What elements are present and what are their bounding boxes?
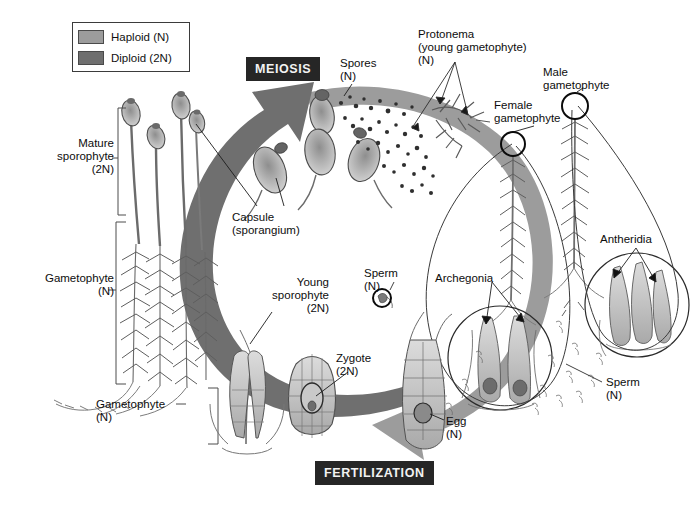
label-gametophyte-bottom: Gametophyte (N) [96,398,182,424]
bracket-mature-sporophyte [112,108,126,215]
highlight-circle-sperm [372,288,392,308]
label-gametophyte-left: Gametophyte (N) [16,272,114,298]
meiosis-banner: MEIOSIS [246,57,320,81]
leader-young-sporophyte [250,312,272,344]
bracket-gametophyte-left [108,222,126,384]
highlight-circle-male-gametophyte [561,92,589,120]
haploid-color-swatch [78,30,104,44]
highlight-circle-female-gametophyte [500,131,526,157]
bracket-gametophyte-bottom [176,388,218,444]
illustration-zygote [288,354,336,438]
legend-item-diploid: Diploid (2N) [78,48,184,68]
ploidy-legend: Haploid (N) Diploid (2N) [72,22,190,72]
diploid-cycle-arrow [180,82,406,417]
label-capsule-sporangium: Capsule (sporangium) [232,211,300,237]
label-mature-sporophyte: Mature sporophyte (2N) [28,137,114,176]
legend-item-haploid: Haploid (N) [78,27,184,47]
label-egg: Egg (N) [446,415,466,441]
moss-life-cycle-figure: Haploid (N) Diploid (2N) MEIOSIS FERTILI… [0,0,698,505]
illustration-archegonia-circle [448,306,552,410]
label-male-gametophyte: Male gametophyte [543,66,623,92]
fertilization-banner: FERTILIZATION [315,461,434,485]
diploid-color-swatch [78,51,104,65]
label-spores: Spores (N) [340,57,390,83]
illustration-male-gametophyte [544,118,604,316]
legend-label-haploid: Haploid (N) [111,31,169,43]
leader-archegonia [482,282,524,324]
label-zygote: Zygote (2N) [336,352,371,378]
label-antheridia: Antheridia [600,233,652,246]
legend-label-diploid: Diploid (2N) [111,52,172,64]
label-young-sporophyte: Young sporophyte (2N) [245,276,329,315]
label-sperm-right: Sperm (N) [606,376,640,402]
label-archegonia: Archegonia [435,272,493,285]
label-protonema: Protonema (young gametophyte) (N) [418,28,527,67]
